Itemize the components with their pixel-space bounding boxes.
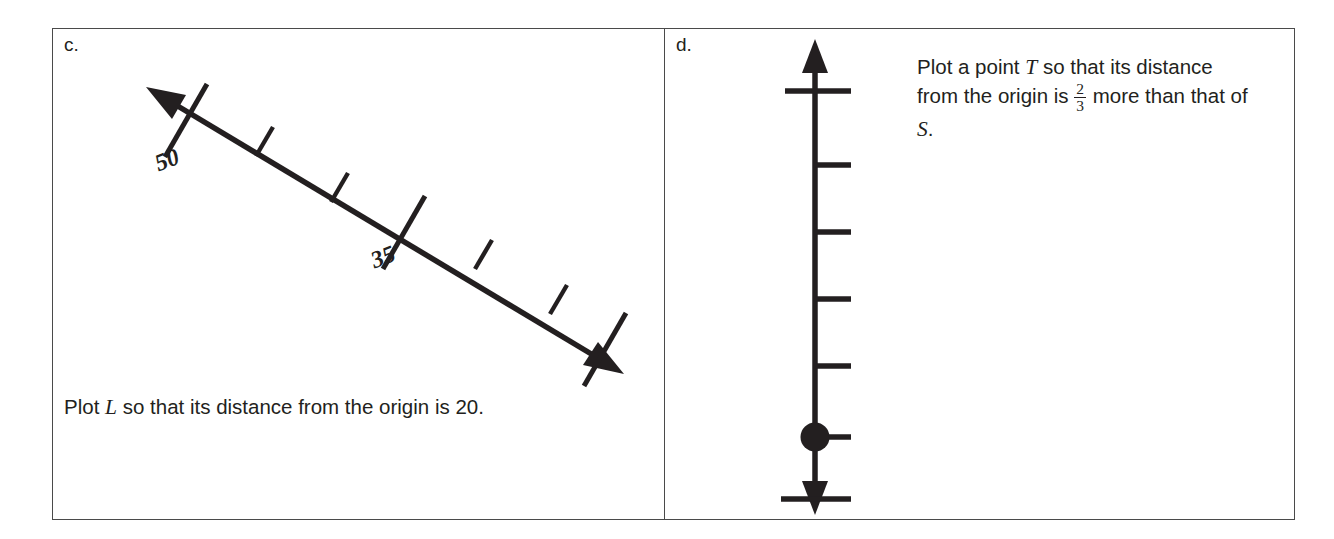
tick-minor-1 [256,127,273,156]
tick-minor-4 [550,285,567,314]
arrowhead-top [802,39,828,73]
arrowhead-start [146,87,186,119]
tick-minor-2 [331,173,348,202]
caption-d-part3: more than that of [1087,84,1248,107]
caption-c-variable: L [105,395,117,419]
axis-line [161,96,613,367]
caption-d-fraction: 23 [1074,81,1086,114]
arrowhead-end [583,342,624,374]
caption-c-text-before: Plot [64,395,105,418]
caption-d-variable-t: T [1025,55,1037,79]
plotted-point-s-dot [801,423,830,452]
panel-d: d. [665,29,1294,519]
caption-d-variable-s: S [917,117,928,141]
worksheet-table: c. [52,28,1295,520]
tick-major-end [584,313,626,386]
caption-d-part4: . [928,117,934,140]
caption-d-part1: Plot a point [917,55,1025,78]
diagonal-number-line-diagram [53,29,665,519]
caption-d-numerator: 2 [1074,81,1086,97]
caption-d-denominator: 3 [1074,97,1086,114]
panel-c: c. [53,29,665,519]
caption-c: Plot L so that its distance from the ori… [64,393,654,421]
caption-c-text-after: so that its distance from the origin is … [117,395,484,418]
caption-d: Plot a point T so that its distance from… [917,53,1257,143]
tick-minor-3 [475,240,492,269]
